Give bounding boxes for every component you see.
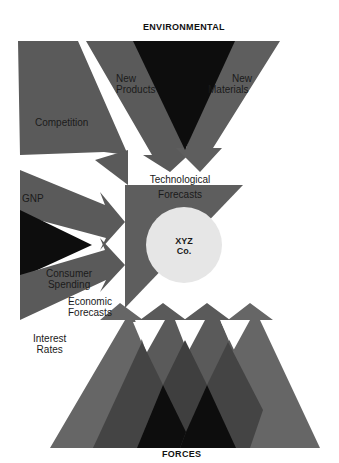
label-new-materials-line1: New [208,73,252,84]
label-economic-line1: Economic [68,296,112,307]
competition-arrowhead [95,150,128,185]
label-new-products: New Products [116,73,155,95]
label-consumer-spending: Consumer Spending [46,268,92,290]
label-interest-line2: Rates [33,344,66,355]
title-environmental: ENVIRONMENTAL [143,22,225,32]
label-economic-line2: Forecasts [68,307,112,318]
label-new-products-line2: Products [116,84,155,95]
title-forces: FORCES [162,449,201,459]
label-new-materials: New Materials [208,73,252,95]
label-gnp: GNP [22,193,44,204]
label-xyz-line2: Co. [170,246,198,256]
label-xyz-line1: XYZ [170,236,198,246]
label-consumer-line2: Spending [46,279,92,290]
environmental-forces-diagram [0,0,339,463]
label-technological-forecasts: Technological Forecasts [140,174,220,200]
label-new-materials-line2: Materials [208,84,252,95]
label-economic-forecasts: Economic Forecasts [68,296,112,318]
label-new-products-line1: New [116,73,155,84]
label-interest-line1: Interest [33,333,66,344]
label-consumer-line1: Consumer [46,268,92,279]
bottom-arrows-group [50,303,320,448]
label-competition: Competition [35,117,88,128]
label-xyz-company: XYZ Co. [170,236,198,256]
label-technological-line2: Forecasts [140,189,220,200]
label-technological-line1: Technological [140,174,220,185]
label-interest-rates: Interest Rates [33,333,66,355]
